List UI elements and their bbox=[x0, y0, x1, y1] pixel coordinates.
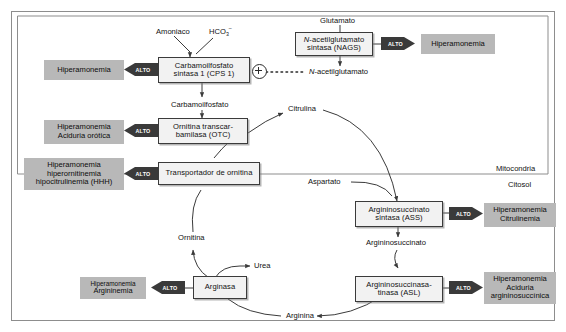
disease-ass-line2: Citrulinemia bbox=[500, 214, 540, 223]
enzyme-cps1-line2: sintasa 1 (CPS 1) bbox=[174, 69, 235, 78]
alto-arrow-asl: ALTO bbox=[449, 281, 483, 294]
curve-arginina-to-arginasa bbox=[228, 299, 281, 316]
alto-arrow-cps1: ALTO bbox=[124, 63, 158, 76]
disease-asl-line2: Aciduria bbox=[506, 283, 533, 292]
alto-arrow-otc: ALTO bbox=[124, 124, 158, 137]
curve-citrulina-to-ass bbox=[323, 110, 397, 201]
disease-hhh-line1: Hiperamonemia bbox=[47, 160, 101, 169]
disease-hhh-line3: hipocitrulinemia (HHH) bbox=[36, 177, 112, 186]
line-aspartato-to-ass bbox=[351, 182, 392, 196]
enzyme-box-otc[interactable]: Ornitina transcar- bamilasa (OTC) bbox=[158, 118, 248, 144]
alto-arrow-ass: ALTO bbox=[449, 207, 483, 220]
enzyme-arginase-line1: Arginasa bbox=[205, 282, 236, 291]
label-glutamato: Glutamato bbox=[320, 17, 355, 25]
alto-arrow-arginase: ALTO bbox=[151, 281, 185, 294]
label-aspartato: Aspartato bbox=[308, 178, 341, 186]
disease-otc-line1: Hiperamonemia bbox=[57, 122, 111, 131]
label-n-acetilglutamato: N-acetilglutamato bbox=[309, 68, 368, 76]
disease-asl-line3: argininosuccínica bbox=[491, 291, 550, 300]
label-urea: Urea bbox=[254, 262, 270, 270]
curve-otc-to-citrulina bbox=[248, 113, 283, 133]
disease-box-hiperamonemia-cps1: Hiperamonemia bbox=[44, 60, 124, 80]
label-ornitina: Ornitina bbox=[178, 234, 205, 242]
enzyme-box-cps1[interactable]: Carbamoilfosfato sintasa 1 (CPS 1) bbox=[158, 57, 250, 83]
enzyme-box-nags[interactable]: N-acetilglutamato sintasa (NAGS) bbox=[295, 32, 373, 56]
disease-box-argininemia: Hiperamonemia Argininemia bbox=[80, 277, 146, 299]
enzyme-box-ass[interactable]: Argininosuccinato sintasa (ASS) bbox=[355, 201, 443, 227]
disease-hhh-line2: hiperornitinemia bbox=[47, 169, 101, 178]
disease-ass-line1: Hiperamonemia bbox=[493, 205, 547, 214]
label-citrulina: Citrulina bbox=[288, 105, 316, 113]
disease-cps1-line1: Hiperamonemia bbox=[57, 65, 111, 74]
disease-box-aciduria-argininosuccinica: Hiperamonemia Aciduria argininosuccínica bbox=[484, 272, 556, 304]
disease-box-hhh: Hiperamonemia hiperornitinemia hipocitru… bbox=[24, 158, 124, 190]
disease-nags-line1: Hiperamonemia bbox=[431, 39, 485, 48]
enzyme-ass-line2: sintasa (ASS) bbox=[375, 213, 422, 222]
disease-box-citrulinemia: Hiperamonemia Citrulinemia bbox=[484, 203, 556, 227]
label-mitocondria: Mitocondria bbox=[496, 164, 535, 173]
enzyme-transporter-line1: Transportador de ornitina bbox=[166, 168, 253, 177]
disease-otc-line2: Aciduria orótica bbox=[58, 131, 110, 140]
urea-cycle-diagram: Carbamoilfosfato sintasa 1 (CPS 1) N-ace… bbox=[0, 0, 566, 332]
arrow-bicarbonato-to-cps1 bbox=[196, 38, 213, 54]
label-carbamoilfosfato: Carbamoilfosfato bbox=[171, 101, 228, 109]
enzyme-otc-line2: bamilasa (OTC) bbox=[176, 130, 231, 139]
label-argininosuccinato: Argininosuccinato bbox=[366, 239, 426, 247]
enzyme-box-ornithine-transporter[interactable]: Transportador de ornitina bbox=[158, 162, 260, 185]
label-amoniaco: Amoniaco bbox=[156, 28, 190, 36]
disease-box-aciduria-orotica: Hiperamonemia Aciduria orótica bbox=[44, 120, 124, 144]
alto-arrow-transporter: ALTO bbox=[124, 167, 158, 180]
curve-ornitina-to-transportador bbox=[192, 190, 201, 232]
curve-argininosuccinato-to-asl bbox=[395, 250, 398, 268]
label-bicarbonato: HCO3– bbox=[209, 28, 232, 36]
disease-asl-line1: Hiperamonemia bbox=[493, 274, 547, 283]
enzyme-box-asl[interactable]: Argininosuccinasa- tinasa (ASL) bbox=[355, 276, 443, 302]
enzyme-asl-line2: tinasa (ASL) bbox=[378, 288, 421, 297]
label-citosol: Citosol bbox=[508, 180, 531, 189]
disease-arginase-line2: Argininemia bbox=[93, 286, 132, 295]
alto-arrow-nags: ALTO bbox=[381, 37, 415, 50]
enzyme-nags-line2: sintasa (NAGS) bbox=[307, 43, 361, 52]
enzyme-box-arginase[interactable]: Arginasa bbox=[193, 276, 247, 299]
disease-box-hiperamonemia-nags: Hiperamonemia bbox=[421, 34, 495, 54]
activation-plus-icon bbox=[252, 64, 267, 79]
arrow-amoniaco-to-cps1 bbox=[174, 36, 190, 57]
curve-arginasa-to-ornitina bbox=[193, 250, 209, 278]
label-arginina: Arginina bbox=[286, 312, 314, 320]
